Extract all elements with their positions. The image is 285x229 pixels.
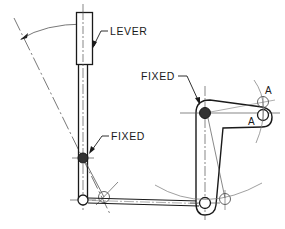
fixed-right-leader [178,76,198,100]
swing-arc [21,24,84,39]
fixed-right-leader-arrow-icon [195,97,200,105]
a-upper-label: A [265,85,272,96]
fixed-pivot-right [200,108,211,119]
a-lower-label: A [248,116,255,127]
connecting-link-top [88,198,199,201]
lever-bottom-pin [78,195,88,205]
fixed-left-leader [92,136,109,150]
fixed-right-label: FIXED [141,70,175,82]
swing-reference-line [14,18,110,214]
fixed-left-label: FIXED [111,130,145,142]
lever-label: LEVER [110,25,147,37]
linkage-drawing: LEVER FIXED FIXED A A [0,0,285,229]
connecting-link-bottom [88,203,199,206]
fixed-pivot-left [78,153,88,163]
lever-leader [94,31,108,46]
lever-handle [77,13,93,65]
